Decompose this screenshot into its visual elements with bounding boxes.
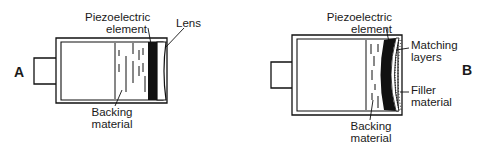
label-filler-b: Filler material <box>411 84 452 108</box>
label-backing-a: Backing material <box>88 106 136 130</box>
backing-material-b <box>371 44 378 108</box>
transducer-a <box>34 28 184 106</box>
transducer-b <box>271 28 409 120</box>
diagram-label-a: A <box>14 64 24 80</box>
transducer-diagrams <box>0 0 483 150</box>
leader-backing-b <box>370 100 373 120</box>
label-piezo-b: Piezoelectric element <box>322 11 392 35</box>
label-backing-b: Backing material <box>346 120 396 144</box>
connector-a <box>34 58 56 84</box>
backing-material-a <box>119 43 145 92</box>
label-lens-a: Lens <box>176 17 201 29</box>
lens-a <box>157 42 166 100</box>
housing-inner-a <box>61 42 163 100</box>
piezo-element-a <box>148 42 157 100</box>
connector-b <box>271 62 292 88</box>
diagram-label-b: B <box>462 62 472 78</box>
label-matching-b: Matching layers <box>411 39 458 63</box>
leader-lens-a <box>165 28 184 48</box>
label-piezo-a: Piezoelectric element <box>85 11 147 35</box>
